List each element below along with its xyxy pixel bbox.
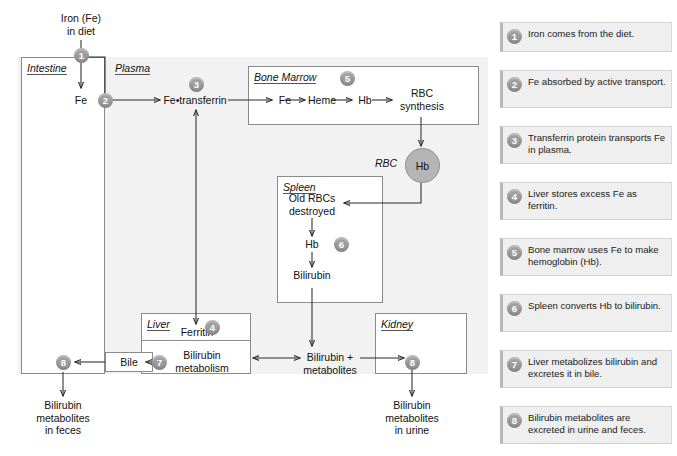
node-bilirubin-metabolites-in-urine: Bilirubin metabolites in urine xyxy=(372,399,452,437)
step-circle-1[interactable]: 1 xyxy=(74,48,89,63)
legend-step-circle-8: 8 xyxy=(507,413,522,428)
legend-panel: 1 Iron comes from the diet. 2 Fe absorbe… xyxy=(500,18,672,438)
node-feces-line2: metabolites xyxy=(23,412,103,425)
legend-step-circle-1: 1 xyxy=(507,29,522,44)
legend-item-2[interactable]: 2 Fe absorbed by active transport. xyxy=(500,70,672,108)
node-spleen-hb: Hb xyxy=(299,238,325,251)
legend-item-1[interactable]: 1 Iron comes from the diet. xyxy=(500,22,672,52)
node-old-rbcs-destroyed: Old RBCs destroyed xyxy=(282,192,342,217)
legend-item-5[interactable]: 5 Bone marrow uses Fe to make hemoglobin… xyxy=(500,238,672,276)
step-circle-3[interactable]: 3 xyxy=(189,77,204,92)
step-circle-6[interactable]: 6 xyxy=(334,237,349,252)
rbc-hb-circle: Hb xyxy=(405,148,440,183)
node-old-rbcs-line2: destroyed xyxy=(282,205,342,218)
legend-text-1: Iron comes from the diet. xyxy=(528,28,634,40)
legend-item-4[interactable]: 4 Liver stores excess Fe as ferritin. xyxy=(500,182,672,220)
label-plasma: Plasma xyxy=(115,62,150,75)
node-fe-intestine: Fe xyxy=(68,94,94,107)
step-circle-5[interactable]: 5 xyxy=(340,71,355,86)
step-circle-8-urine[interactable]: 8 xyxy=(405,355,420,370)
label-intestine: Intestine xyxy=(27,62,67,75)
node-bm-heme: Heme xyxy=(305,94,339,107)
legend-text-2: Fe absorbed by active transport. xyxy=(528,76,666,88)
label-kidney: Kidney xyxy=(381,318,413,331)
step-circle-2[interactable]: 2 xyxy=(98,93,113,108)
node-iron-in-diet: Iron (Fe) in diet xyxy=(41,12,121,37)
legend-step-circle-3: 3 xyxy=(507,133,522,148)
node-feces-line3: in feces xyxy=(23,424,103,437)
node-feces-line1: Bilirubin xyxy=(23,399,103,412)
label-rbc: RBC xyxy=(375,157,397,169)
legend-text-3: Transferrin protein transports Fe in pla… xyxy=(528,132,666,155)
node-bilirubin-metabolism-line1: Bilirubin xyxy=(166,349,238,362)
legend-text-6: Spleen converts Hb to bilirubin. xyxy=(528,300,661,312)
diagram-canvas: Iron (Fe) in diet Intestine Plasma Bone … xyxy=(0,0,677,456)
legend-item-8[interactable]: 8 Bilirubin metabolites are excreted in … xyxy=(500,406,672,444)
legend-item-7[interactable]: 7 Liver metabolizes bilirubin and excret… xyxy=(500,350,672,388)
node-bilirubin-metabolites-in-feces: Bilirubin metabolites in feces xyxy=(23,399,103,437)
legend-item-6[interactable]: 6 Spleen converts Hb to bilirubin. xyxy=(500,294,672,332)
legend-step-circle-4: 4 xyxy=(507,189,522,204)
node-bilirubin-plus-metabolites: Bilirubin + metabolites xyxy=(292,351,368,376)
legend-item-3[interactable]: 3 Transferrin protein transports Fe in p… xyxy=(500,126,672,164)
node-urine-line1: Bilirubin xyxy=(372,399,452,412)
legend-step-circle-5: 5 xyxy=(507,245,522,260)
legend-text-8: Bilirubin metabolites are excreted in ur… xyxy=(528,412,666,435)
node-old-rbcs-line1: Old RBCs xyxy=(282,192,342,205)
node-bilirubin-metabolism: Bilirubin metabolism xyxy=(166,349,238,374)
node-urine-line3: in urine xyxy=(372,424,452,437)
legend-step-circle-6: 6 xyxy=(507,301,522,316)
legend-text-4: Liver stores excess Fe as ferritin. xyxy=(528,188,666,211)
label-liver: Liver xyxy=(147,318,170,331)
node-bm-fe: Fe xyxy=(272,94,298,107)
node-rbc-synthesis: RBC synthesis xyxy=(395,87,449,112)
node-fe-transferrin: Fe•transferrin xyxy=(160,94,230,107)
node-rbc-synthesis-line2: synthesis xyxy=(395,100,449,113)
step-circle-7[interactable]: 7 xyxy=(152,355,167,370)
node-spleen-bilirubin: Bilirubin xyxy=(285,269,339,282)
node-bili-metab-line1: Bilirubin + xyxy=(292,351,368,364)
legend-step-circle-7: 7 xyxy=(507,357,522,372)
step-circle-8-feces[interactable]: 8 xyxy=(56,355,71,370)
step-circle-4[interactable]: 4 xyxy=(205,320,220,335)
node-rbc-synthesis-line1: RBC xyxy=(395,87,449,100)
label-bone-marrow: Bone Marrow xyxy=(254,71,316,84)
node-iron-in-diet-line1: Iron (Fe) xyxy=(41,12,121,25)
node-iron-in-diet-line2: in diet xyxy=(41,25,121,38)
legend-step-circle-2: 2 xyxy=(507,77,522,92)
rbc-hb-text: Hb xyxy=(416,160,429,172)
node-bilirubin-metabolism-line2: metabolism xyxy=(166,362,238,375)
node-bili-metab-line2: metabolites xyxy=(292,364,368,377)
node-bile: Bile xyxy=(110,356,148,369)
legend-text-7: Liver metabolizes bilirubin and excretes… xyxy=(528,356,666,379)
node-urine-line2: metabolites xyxy=(372,412,452,425)
node-bm-hb: Hb xyxy=(352,94,378,107)
legend-text-5: Bone marrow uses Fe to make hemoglobin (… xyxy=(528,244,666,267)
